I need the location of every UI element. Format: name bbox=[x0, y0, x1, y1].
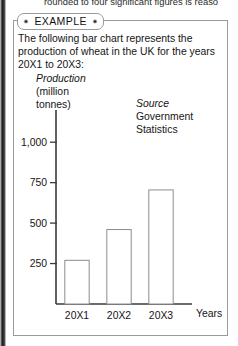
example-intro-text: The following bar chart represents the p… bbox=[18, 32, 224, 72]
y-axis-caption-line-1: Production bbox=[36, 72, 86, 85]
x-axis-name: Years bbox=[196, 308, 222, 319]
star-icon-right: ✷ bbox=[92, 18, 98, 25]
page-gutter bbox=[0, 0, 6, 346]
x-axis-category-label: 20X2 bbox=[107, 310, 131, 321]
y-axis-tick-label: 250 bbox=[30, 258, 48, 269]
y-axis-tick-label: 500 bbox=[30, 218, 48, 229]
bar bbox=[107, 230, 131, 304]
y-axis-tick-label: 1,000 bbox=[21, 137, 47, 148]
page-running-text: rounded to four significant figures is r… bbox=[44, 0, 238, 7]
x-axis-category-label: 20X3 bbox=[149, 310, 173, 321]
bar bbox=[65, 260, 89, 304]
y-axis-tick-label: 750 bbox=[30, 177, 48, 188]
star-icon-left: ✷ bbox=[23, 18, 29, 25]
example-tab-label: EXAMPLE bbox=[34, 16, 86, 27]
x-axis-category-label: 20X1 bbox=[65, 310, 89, 321]
bar bbox=[149, 190, 173, 304]
bar-chart-svg: 2505007501,00020X120X220X3Years bbox=[14, 96, 228, 324]
example-tab: ✷ EXAMPLE ✷ bbox=[17, 13, 104, 30]
bar-chart: 2505007501,00020X120X220X3Years bbox=[14, 96, 228, 324]
